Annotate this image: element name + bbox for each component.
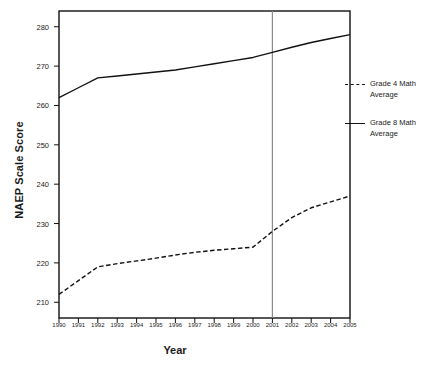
- legend-label-grade-4-line2: Average: [370, 90, 398, 99]
- legend-item-grade-4: Grade 4 Math Average: [345, 78, 435, 101]
- plot-area: [0, 0, 435, 370]
- legend-label-grade-8-line1: Grade 8 Math: [370, 118, 416, 127]
- legend-item-grade-8: Grade 8 Math Average: [345, 117, 435, 140]
- chart-legend: Grade 4 Math Average Grade 8 Math Averag…: [345, 78, 435, 155]
- legend-label-grade-4: Grade 4 Math Average: [370, 78, 416, 101]
- legend-label-grade-4-line1: Grade 4 Math: [370, 79, 416, 88]
- legend-label-grade-8: Grade 8 Math Average: [370, 117, 416, 140]
- plot-frame: [59, 11, 350, 318]
- legend-line-solid-icon: [345, 119, 365, 129]
- chart-figure: NAEP Scale Score Year 210220230240250260…: [0, 0, 435, 370]
- series-line-grade-8: [59, 35, 350, 98]
- legend-label-grade-8-line2: Average: [370, 129, 398, 138]
- legend-line-dashed-icon: [345, 80, 365, 90]
- series-line-grade-4: [59, 196, 350, 294]
